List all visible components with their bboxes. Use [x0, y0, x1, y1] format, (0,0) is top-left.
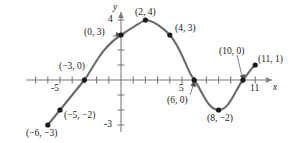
x-tick-label-neg5: -5 — [51, 84, 59, 94]
x-tick-label-5: 5 — [179, 84, 184, 94]
coordinate-plane-svg — [0, 0, 301, 143]
point-label-0-3: (0, 3) — [84, 28, 105, 38]
point-8-neg2 — [216, 107, 221, 112]
point-label-neg6-neg3: (−6, −3) — [26, 129, 57, 139]
point-label-neg5-neg2: (−5, −2) — [64, 111, 95, 121]
point-4-3 — [167, 32, 172, 37]
y-tick-label-4: 4 — [108, 15, 113, 25]
x-axis — [26, 77, 272, 83]
graph-figure: -5 5 11 4 -3 x y (−6, −3) (−5, −2) (−3, … — [0, 0, 301, 143]
point-label-8-neg2: (8, −2) — [207, 114, 233, 124]
y-axis — [118, 12, 124, 132]
point-0-3 — [118, 32, 123, 37]
point-neg6-neg3 — [45, 122, 50, 127]
point-label-11-1: (11, 1) — [258, 55, 283, 65]
point-10-0 — [240, 77, 245, 82]
point-label-6-0: (6, 0) — [167, 96, 188, 106]
x-tick-label-11: 11 — [250, 84, 259, 94]
point-label-4-3: (4, 3) — [175, 24, 196, 34]
point-neg3-0 — [82, 77, 87, 82]
y-tick-label-neg3: -3 — [104, 120, 112, 130]
x-axis-name: x — [273, 83, 277, 93]
point-label-10-0: (10, 0) — [219, 47, 244, 57]
point-label-2-4: (2, 4) — [135, 8, 156, 18]
point-6-0 — [192, 77, 197, 82]
point-label-neg3-0: (−3, 0) — [59, 62, 85, 72]
y-axis-name: y — [113, 3, 117, 13]
point-neg5-neg2 — [57, 107, 62, 112]
point-2-4 — [143, 17, 148, 22]
